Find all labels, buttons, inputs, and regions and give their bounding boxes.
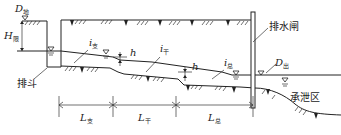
label-receiving-area: 承泄区 (290, 91, 320, 103)
drainage-profile-diagram: D地 H限 (0, 0, 341, 135)
water-surface (17, 51, 341, 75)
label-pai-dou: 排斗 (17, 77, 37, 89)
label-l-zhi: L支 (79, 112, 93, 125)
field-ditch (47, 21, 61, 67)
ditch-bed (61, 66, 341, 115)
drop-h-2 (178, 67, 192, 81)
label-h-limit: H限 (3, 30, 19, 43)
label-i-zong: i总 (224, 57, 233, 69)
drop-h-1 (113, 52, 127, 66)
label-d-field: D地 (14, 3, 29, 15)
ground-hatching-top (25, 20, 248, 25)
label-i-gan: i干 (160, 43, 169, 56)
label-h-drop-1: h (130, 47, 136, 58)
label-i-zhi: i支 (89, 37, 98, 50)
length-dimensions (59, 96, 253, 117)
water-level-symbol-field (22, 16, 28, 20)
ground-hatching-bottom (65, 67, 306, 115)
drain-gate (251, 12, 268, 108)
ground-surface (22, 20, 255, 21)
soil-markers-top (70, 20, 230, 26)
label-l-gan: L干 (137, 112, 151, 125)
h-limit-dimension (20, 21, 24, 51)
label-drain-gate: 排水闸 (269, 20, 299, 32)
label-l-zong: L总 (207, 112, 221, 124)
slope-leaders (74, 50, 224, 79)
label-h-drop-2: h (192, 61, 198, 72)
label-d-out: D出 (274, 57, 289, 70)
